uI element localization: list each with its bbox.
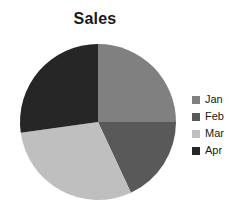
legend-label: Apr: [205, 145, 222, 156]
legend-item-mar[interactable]: Mar: [192, 125, 238, 142]
legend-swatch-icon: [192, 96, 200, 104]
legend-item-feb[interactable]: Feb: [192, 108, 238, 125]
chart-legend: JanFebMarApr: [192, 91, 238, 159]
legend-item-apr[interactable]: Apr: [192, 142, 238, 159]
pie-slice-jan[interactable]: [98, 44, 176, 122]
legend-swatch-icon: [192, 130, 200, 138]
legend-swatch-icon: [192, 147, 200, 155]
pie-chart: Sales JanFebMarApr: [0, 0, 238, 217]
legend-label: Feb: [205, 111, 224, 122]
legend-label: Jan: [205, 94, 223, 105]
legend-label: Mar: [205, 128, 224, 139]
pie-svg: [0, 0, 190, 217]
pie-plot-area: [0, 0, 190, 217]
legend-swatch-icon: [192, 113, 200, 121]
pie-slice-apr[interactable]: [20, 44, 98, 133]
legend-item-jan[interactable]: Jan: [192, 91, 238, 108]
pie-slice-group: [20, 44, 176, 200]
